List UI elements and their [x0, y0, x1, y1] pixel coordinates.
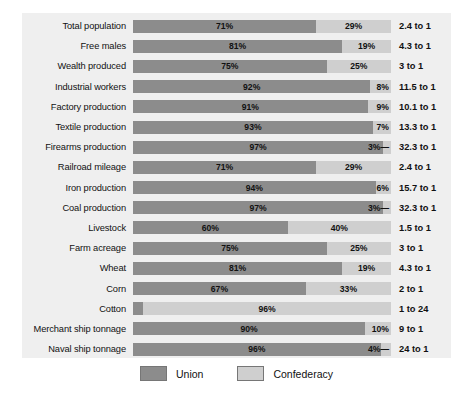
- bar-segment-confederacy: 3%—: [383, 201, 391, 214]
- row-category-label: Coal production: [22, 203, 133, 213]
- stacked-bar: 60%40%: [133, 221, 391, 234]
- bar-segment-union: 93%: [133, 121, 373, 134]
- row-ratio-label: 11.5 to 1: [391, 82, 436, 92]
- confederacy-value-label: 10%: [372, 324, 389, 334]
- row-category-label: Livestock: [22, 223, 133, 233]
- row-ratio-label: 13.3 to 1: [391, 122, 436, 132]
- union-value-label: 75%: [133, 243, 327, 253]
- chart-row: Total population71%29%2.4 to 1: [22, 16, 451, 36]
- confederacy-value-label: 29%: [316, 21, 391, 31]
- row-category-label: Industrial workers: [22, 82, 133, 92]
- stacked-bar: 81%19%: [133, 40, 391, 53]
- chart-row: Firearms production97%3%—32.3 to 1: [22, 137, 451, 157]
- bar-segment-union: 75%: [133, 60, 327, 73]
- stacked-bar: 67%33%: [133, 282, 391, 295]
- stacked-bar: 93%7%: [133, 121, 391, 134]
- confederacy-value-label: 4%—: [368, 344, 389, 354]
- union-value-label: 71%: [133, 162, 316, 172]
- union-value-label: 60%: [133, 223, 288, 233]
- bar-segment-union: 90%: [133, 322, 365, 335]
- row-ratio-label: 32.3 to 1: [391, 203, 436, 213]
- chart-row: Farm acreage75%25%3 to 1: [22, 238, 451, 258]
- stacked-bar: 94%6%: [133, 181, 391, 194]
- row-category-label: Wealth produced: [22, 61, 133, 71]
- row-ratio-label: 9 to 1: [391, 324, 423, 334]
- row-ratio-label: 1 to 24: [391, 304, 428, 314]
- chart-row: Textile production93%7%13.3 to 1: [22, 117, 451, 137]
- chart-row: Corn67%33%2 to 1: [22, 278, 451, 298]
- legend-item: Union: [140, 366, 203, 381]
- chart-row: Merchant ship tonnage90%10%9 to 1: [22, 319, 451, 339]
- row-ratio-label: 3 to 1: [391, 243, 423, 253]
- row-category-label: Corn: [22, 284, 133, 294]
- bar-segment-confederacy: 3%—: [383, 141, 391, 154]
- confederacy-value-label: 40%: [288, 223, 391, 233]
- row-ratio-label: 4.3 to 1: [391, 41, 431, 51]
- row-ratio-label: 24 to 1: [391, 344, 428, 354]
- bar-segment-confederacy: 29%: [316, 161, 391, 174]
- stacked-bar: 91%9%: [133, 100, 391, 113]
- row-ratio-label: 2.4 to 1: [391, 162, 431, 172]
- legend-label: Union: [176, 368, 203, 380]
- bar-segment-union: 92%: [133, 80, 370, 93]
- confederacy-value-label: 96%: [143, 304, 391, 314]
- bar-segment-union: 97%: [133, 201, 383, 214]
- chart-panel: Total population71%29%2.4 to 1Free males…: [22, 13, 451, 358]
- row-category-label: Naval ship tonnage: [22, 344, 133, 354]
- row-category-label: Railroad mileage: [22, 162, 133, 172]
- bar-segment-confederacy: 10%: [365, 322, 391, 335]
- bar-segment-union: 60%: [133, 221, 288, 234]
- bar-segment-confederacy: 19%: [342, 262, 391, 275]
- bar-segment-union: 91%: [133, 100, 368, 113]
- union-value-label: 92%: [133, 82, 370, 92]
- row-category-label: Factory production: [22, 102, 133, 112]
- row-category-label: Merchant ship tonnage: [22, 324, 133, 334]
- row-ratio-label: 2 to 1: [391, 284, 423, 294]
- stacked-bar: 90%10%: [133, 322, 391, 335]
- row-ratio-label: 3 to 1: [391, 61, 423, 71]
- union-value-label: 94%: [133, 183, 376, 193]
- bar-segment-confederacy: 4%—: [381, 343, 391, 356]
- union-value-label: 90%: [133, 324, 365, 334]
- union-value-label: 71%: [133, 21, 316, 31]
- union-value-label: 93%: [133, 122, 373, 132]
- stacked-bar: 71%29%: [133, 161, 391, 174]
- row-category-label: Textile production: [22, 122, 133, 132]
- bar-segment-union: 71%: [133, 161, 316, 174]
- union-value-label: 67%: [133, 284, 306, 294]
- bar-segment-confederacy: 25%: [327, 242, 392, 255]
- confederacy-value-label: 6%: [377, 183, 389, 193]
- stacked-bar: 75%25%: [133, 242, 391, 255]
- row-category-label: Total population: [22, 21, 133, 31]
- bar-rows: Total population71%29%2.4 to 1Free males…: [22, 16, 451, 359]
- union-value-label: 75%: [133, 61, 327, 71]
- row-ratio-label: 2.4 to 1: [391, 21, 431, 31]
- union-value-label: 81%: [133, 41, 342, 51]
- row-category-label: Wheat: [22, 263, 133, 273]
- bar-segment-confederacy: 19%: [342, 40, 391, 53]
- chart-row: Naval ship tonnage96%4%—24 to 1: [22, 339, 451, 359]
- confederacy-value-label: 9%: [377, 102, 389, 112]
- chart-row: Coal production97%3%—32.3 to 1: [22, 198, 451, 218]
- stacked-bar: — 4%96%: [133, 302, 391, 315]
- union-value-label: 97%: [133, 142, 383, 152]
- stacked-bar: 81%19%: [133, 262, 391, 275]
- confederacy-value-label: 25%: [327, 61, 392, 71]
- row-category-label: Farm acreage: [22, 243, 133, 253]
- chart-row: Wheat81%19%4.3 to 1: [22, 258, 451, 278]
- confederacy-value-label: 33%: [306, 284, 391, 294]
- legend-swatch-union: [140, 366, 167, 381]
- stacked-bar: 97%3%—: [133, 201, 391, 214]
- chart-row: Railroad mileage71%29%2.4 to 1: [22, 157, 451, 177]
- bar-segment-union: 67%: [133, 282, 306, 295]
- bar-segment-confederacy: 9%: [368, 100, 391, 113]
- stacked-bar: 71%29%: [133, 20, 391, 33]
- bar-segment-union: 81%: [133, 40, 342, 53]
- bar-segment-confederacy: 25%: [327, 60, 392, 73]
- bar-segment-confederacy: 33%: [306, 282, 391, 295]
- confederacy-value-label: 19%: [342, 263, 391, 273]
- stacked-bar: 92%8%: [133, 80, 391, 93]
- row-category-label: Free males: [22, 41, 133, 51]
- row-category-label: Firearms production: [22, 142, 133, 152]
- confederacy-value-label: 3%—: [368, 203, 389, 213]
